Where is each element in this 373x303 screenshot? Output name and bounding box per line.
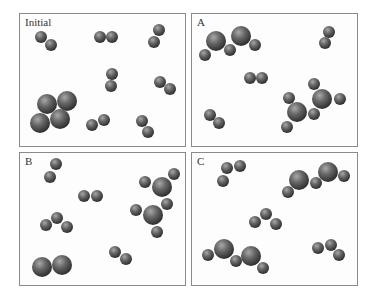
small-atom [325, 239, 337, 251]
large-atom [241, 246, 261, 266]
small-atom [86, 119, 98, 131]
large-atom [52, 255, 72, 275]
small-atom [61, 221, 73, 233]
small-atom [249, 216, 261, 228]
small-atom [161, 198, 173, 210]
small-atom [44, 171, 56, 183]
small-atom [204, 109, 216, 121]
small-atom [257, 262, 269, 274]
large-atom [143, 205, 163, 225]
small-atom [35, 31, 47, 43]
small-atom [106, 68, 118, 80]
small-atom [234, 160, 246, 172]
small-atom [334, 93, 346, 105]
atoms-layer [0, 0, 373, 303]
small-atom [217, 175, 229, 187]
small-atom [120, 253, 132, 265]
large-atom [152, 177, 172, 197]
large-atom [50, 109, 70, 129]
small-atom [139, 176, 151, 188]
small-atom [98, 114, 110, 126]
small-atom [202, 249, 214, 261]
small-atom [221, 162, 233, 174]
small-atom [312, 242, 324, 254]
small-atom [106, 31, 118, 43]
small-atom [151, 226, 163, 238]
small-atom [338, 170, 350, 182]
small-atom [230, 255, 242, 267]
small-atom [323, 26, 335, 38]
large-atom [289, 170, 309, 190]
small-atom [319, 37, 331, 49]
large-atom [312, 89, 332, 109]
small-atom [256, 72, 268, 84]
large-atom [30, 113, 50, 133]
small-atom [260, 208, 272, 220]
small-atom [51, 212, 63, 224]
small-atom [164, 83, 176, 95]
small-atom [213, 117, 225, 129]
large-atom [287, 102, 307, 122]
small-atom [136, 115, 148, 127]
small-atom [308, 108, 320, 120]
small-atom [281, 121, 293, 133]
small-atom [45, 39, 57, 51]
small-atom [270, 218, 282, 230]
small-atom [153, 24, 165, 36]
small-atom [282, 186, 294, 198]
large-atom [318, 162, 338, 182]
small-atom [142, 126, 154, 138]
small-atom [244, 72, 256, 84]
small-atom [105, 80, 117, 92]
small-atom [308, 78, 320, 90]
small-atom [310, 177, 322, 189]
large-atom [32, 257, 52, 277]
small-atom [130, 204, 142, 216]
large-atom [57, 91, 77, 111]
large-atom [231, 26, 251, 46]
small-atom [91, 190, 103, 202]
small-atom [148, 36, 160, 48]
small-atom [168, 168, 180, 180]
small-atom [154, 76, 166, 88]
small-atom [78, 190, 90, 202]
small-atom [50, 158, 62, 170]
small-atom [94, 31, 106, 43]
small-atom [333, 249, 345, 261]
small-atom [224, 44, 236, 56]
small-atom [109, 246, 121, 258]
large-atom [214, 239, 234, 259]
small-atom [249, 39, 261, 51]
large-atom [206, 31, 226, 51]
small-atom [199, 49, 211, 61]
small-atom [283, 92, 295, 104]
small-atom [40, 219, 52, 231]
